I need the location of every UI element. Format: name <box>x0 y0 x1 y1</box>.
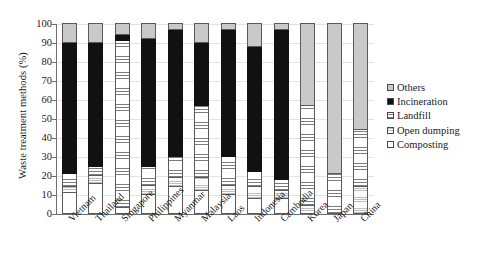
bar-vietnam[interactable] <box>62 24 77 214</box>
bar-indonesia[interactable] <box>247 24 262 214</box>
segment-incineration[interactable] <box>141 38 156 166</box>
bar-philippines[interactable] <box>141 24 156 214</box>
incineration-swatch-icon <box>387 98 394 105</box>
y-axis-tick-label: 40 <box>28 133 52 143</box>
segment-incineration[interactable] <box>274 29 289 180</box>
y-axis-tick-label: 60 <box>28 95 52 105</box>
legend-item-others[interactable]: Others <box>387 80 482 94</box>
legend: OthersIncinerationLandfillOpen dumpingCo… <box>387 80 482 152</box>
segment-open-dumping[interactable] <box>194 177 209 191</box>
segment-incineration[interactable] <box>168 29 183 157</box>
plot-area <box>56 24 374 215</box>
x-axis-category-labels: VietnamThailandSingaporePhilippinesMyanm… <box>56 216 374 276</box>
segment-others[interactable] <box>274 23 289 30</box>
legend-item-landfill[interactable]: Landfill <box>387 109 482 123</box>
y-axis-tick-labels: 0102030405060708090100 <box>26 24 52 215</box>
segment-incineration[interactable] <box>221 29 236 157</box>
segment-incineration[interactable] <box>62 42 77 174</box>
segment-landfill[interactable] <box>247 171 262 187</box>
segment-incineration[interactable] <box>88 42 103 167</box>
legend-label: Landfill <box>397 110 431 121</box>
others-swatch-icon <box>387 84 394 91</box>
landfill-swatch-icon <box>387 112 394 119</box>
segment-others[interactable] <box>221 23 236 30</box>
segment-landfill[interactable] <box>115 40 130 208</box>
segment-landfill[interactable] <box>141 166 156 186</box>
legend-label: Others <box>397 82 425 93</box>
legend-label: Open dumping <box>397 125 460 136</box>
segment-others[interactable] <box>62 23 77 43</box>
segment-landfill[interactable] <box>168 156 183 178</box>
segment-others[interactable] <box>247 23 262 47</box>
segment-landfill[interactable] <box>194 105 209 178</box>
legend-item-open-dumping[interactable]: Open dumping <box>387 123 482 137</box>
y-axis-tick-label: 90 <box>28 38 52 48</box>
legend-item-composting[interactable]: Composting <box>387 138 482 152</box>
y-axis-tick-label: 20 <box>28 171 52 181</box>
y-axis-tick-label: 0 <box>28 209 52 219</box>
bar-japan[interactable] <box>327 24 342 214</box>
legend-item-incineration[interactable]: Incineration <box>387 94 482 108</box>
waste-treatment-stacked-bar-chart: Waste treatment methods (%) 010203040506… <box>0 0 482 276</box>
y-axis-tick-label: 70 <box>28 76 52 86</box>
bar-cambodia[interactable] <box>274 24 289 214</box>
bar-china[interactable] <box>353 24 368 214</box>
bar-korea[interactable] <box>300 24 315 214</box>
segment-others[interactable] <box>115 23 130 35</box>
bar-malaysia[interactable] <box>194 24 209 214</box>
bar-thailand[interactable] <box>88 24 103 214</box>
segment-others[interactable] <box>88 23 103 43</box>
y-axis-tick-label: 50 <box>28 114 52 124</box>
segment-landfill[interactable] <box>88 166 103 177</box>
y-axis-tick-label: 10 <box>28 190 52 200</box>
composting-swatch-icon <box>387 141 394 148</box>
segment-others[interactable] <box>353 23 368 130</box>
y-axis-tick-label: 30 <box>28 152 52 162</box>
legend-label: Incineration <box>397 96 448 107</box>
segment-incineration[interactable] <box>194 42 209 106</box>
segment-others[interactable] <box>168 23 183 30</box>
y-axis-tick-label: 100 <box>28 19 52 29</box>
segment-incineration[interactable] <box>247 46 262 172</box>
segment-open-dumping[interactable] <box>88 175 103 184</box>
y-axis-tick-label: 80 <box>28 57 52 67</box>
segment-others[interactable] <box>141 23 156 39</box>
legend-label: Composting <box>397 139 448 150</box>
segment-landfill[interactable] <box>221 156 236 186</box>
open-dumping-swatch-icon <box>387 127 394 134</box>
segment-landfill[interactable] <box>62 173 77 187</box>
segment-others[interactable] <box>300 23 315 106</box>
segment-landfill[interactable] <box>353 129 368 187</box>
bar-series-layer <box>56 24 374 215</box>
bar-singapore[interactable] <box>115 24 130 214</box>
segment-incineration[interactable] <box>115 34 130 41</box>
segment-others[interactable] <box>194 23 209 43</box>
bar-laos[interactable] <box>221 24 236 214</box>
segment-open-dumping[interactable] <box>247 186 262 198</box>
segment-others[interactable] <box>327 23 342 174</box>
segment-open-dumping[interactable] <box>62 186 77 193</box>
